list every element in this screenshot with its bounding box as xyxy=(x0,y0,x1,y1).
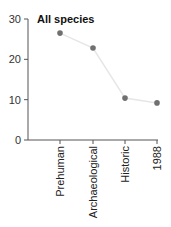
line-chart: 0102030PrehumanArchaeologicalHistoric198… xyxy=(0,0,171,227)
data-point-marker xyxy=(154,100,160,106)
y-tick-label: 10 xyxy=(9,94,21,106)
x-category-label: Prehuman xyxy=(54,146,66,197)
y-tick-label: 30 xyxy=(9,13,21,25)
x-category-label: Archaeological xyxy=(87,146,99,218)
axes: 0102030PrehumanArchaeologicalHistoric198… xyxy=(9,13,163,218)
x-category-label: 1988 xyxy=(151,146,163,170)
chart-title: All species xyxy=(37,13,94,25)
y-tick-label: 20 xyxy=(9,53,21,65)
y-tick-label: 0 xyxy=(15,134,21,146)
series-all-species xyxy=(57,30,160,105)
series-line xyxy=(60,33,157,103)
data-point-marker xyxy=(90,45,96,51)
data-point-marker xyxy=(122,95,128,101)
data-point-marker xyxy=(57,30,63,36)
x-category-label: Historic xyxy=(119,146,131,183)
